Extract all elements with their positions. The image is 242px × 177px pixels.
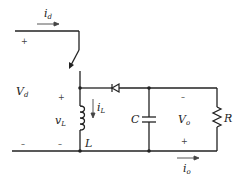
sign-vo-plus: + — [181, 138, 188, 146]
label-r: R — [224, 113, 232, 124]
diode-icon — [112, 84, 119, 92]
sign-vl-minus: – — [58, 141, 62, 149]
sign-vo-minus: – — [181, 94, 185, 102]
junction-dot — [78, 86, 82, 90]
inductor-coil — [80, 106, 85, 130]
label-io: io — [183, 163, 191, 176]
resistor-zigzag — [213, 107, 221, 127]
label-il: iL — [97, 102, 105, 115]
label-c: C — [131, 114, 139, 125]
junction-dot — [147, 149, 151, 153]
sign-vd-minus: – — [21, 141, 25, 149]
junction-dot — [147, 86, 151, 90]
label-id: id — [44, 8, 52, 21]
sign-vd-plus: + — [21, 38, 28, 46]
sign-vl-plus: + — [58, 94, 65, 102]
junction-dot — [78, 149, 82, 153]
label-vd: Vd — [16, 86, 28, 99]
circuit-schematic — [0, 0, 242, 177]
label-vl: vL — [55, 115, 66, 128]
label-l: L — [85, 138, 92, 149]
label-vo: Vo — [178, 114, 190, 127]
